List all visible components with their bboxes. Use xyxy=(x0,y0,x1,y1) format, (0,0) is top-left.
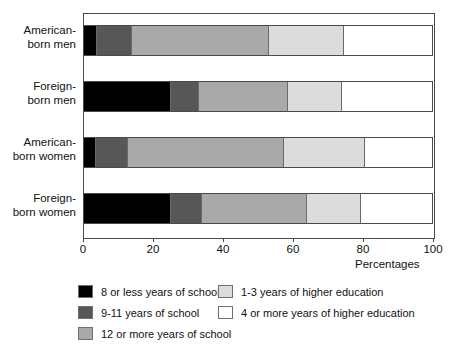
legend-swatch-icon xyxy=(218,306,233,319)
x-axis-tick xyxy=(293,238,294,242)
legend-swatch-icon xyxy=(78,306,93,319)
bar-segment xyxy=(132,25,269,56)
bar-segment xyxy=(202,193,307,224)
category-label-line1: American- xyxy=(0,24,76,38)
legend-label: 8 or less years of school xyxy=(101,286,220,298)
stacked-bar xyxy=(83,137,433,168)
legend: 8 or less years of school 9-11 years of … xyxy=(78,281,463,343)
category-label-american-born-women: American- born women xyxy=(0,136,76,163)
legend-label: 4 or more years of higher education xyxy=(241,307,415,319)
bar-row xyxy=(83,181,433,237)
bar-segment xyxy=(269,25,344,56)
category-label-line2: born women xyxy=(0,150,76,164)
x-axis-tick-label: 40 xyxy=(203,243,243,255)
stacked-bar-chart: American- born men Foreign- born men Ame… xyxy=(0,0,463,351)
legend-swatch-icon xyxy=(78,285,93,298)
stacked-bar xyxy=(83,25,433,56)
bar-segment xyxy=(96,137,129,168)
bar-segment xyxy=(284,137,365,168)
x-axis-tick-label: 0 xyxy=(63,243,103,255)
category-label-foreign-born-men: Foreign- born men xyxy=(0,80,76,107)
bar-segment xyxy=(83,193,171,224)
legend-label: 12 or more years of school xyxy=(101,328,231,340)
bar-row xyxy=(83,125,433,181)
legend-item[interactable]: 1-3 years of higher education xyxy=(218,281,415,302)
bar-segment xyxy=(365,137,433,168)
x-axis-line xyxy=(83,238,434,239)
bar-segment xyxy=(83,25,97,56)
x-axis-tick xyxy=(223,238,224,242)
bar-segment xyxy=(171,193,203,224)
bar-row xyxy=(83,13,433,69)
category-label-line2: born women xyxy=(0,206,76,220)
legend-label: 1-3 years of higher education xyxy=(241,286,383,298)
category-label-line1: American- xyxy=(0,136,76,150)
x-axis-tick-label: 20 xyxy=(133,243,173,255)
bar-row xyxy=(83,69,433,125)
legend-column-right: 1-3 years of higher education 4 or more … xyxy=(218,281,415,323)
legend-column-left: 8 or less years of school 9-11 years of … xyxy=(78,281,231,344)
bar-segment xyxy=(128,137,284,168)
bar-segment xyxy=(342,81,433,112)
legend-swatch-icon xyxy=(78,327,93,340)
x-axis-tick xyxy=(83,238,84,242)
x-axis-tick-label: 100 xyxy=(413,243,453,255)
x-axis-title: Percentages xyxy=(355,258,420,270)
x-axis-tick xyxy=(153,238,154,242)
bar-segment xyxy=(288,81,342,112)
legend-label: 9-11 years of school xyxy=(101,307,199,319)
legend-item[interactable]: 4 or more years of higher education xyxy=(218,302,415,323)
bar-segment xyxy=(307,193,361,224)
bar-segment xyxy=(199,81,288,112)
x-axis-tick xyxy=(363,238,364,242)
x-axis-tick-label: 60 xyxy=(273,243,313,255)
bar-segment xyxy=(83,137,96,168)
bar-segment xyxy=(344,25,433,56)
stacked-bar xyxy=(83,193,433,224)
bar-segment xyxy=(97,25,132,56)
stacked-bar xyxy=(83,81,433,112)
legend-item[interactable]: 9-11 years of school xyxy=(78,302,231,323)
category-label-line1: Foreign- xyxy=(0,80,76,94)
category-label-american-born-men: American- born men xyxy=(0,24,76,51)
x-axis-tick-label: 80 xyxy=(343,243,383,255)
category-label-line2: born men xyxy=(0,94,76,108)
bar-segment xyxy=(83,81,171,112)
category-label-foreign-born-women: Foreign- born women xyxy=(0,192,76,219)
category-label-line2: born men xyxy=(0,38,76,52)
bar-segment xyxy=(361,193,433,224)
bar-segment xyxy=(171,81,199,112)
legend-item[interactable]: 12 or more years of school xyxy=(78,323,231,344)
category-label-line1: Foreign- xyxy=(0,192,76,206)
legend-swatch-icon xyxy=(218,285,233,298)
legend-item[interactable]: 8 or less years of school xyxy=(78,281,231,302)
x-axis-tick xyxy=(433,238,434,242)
